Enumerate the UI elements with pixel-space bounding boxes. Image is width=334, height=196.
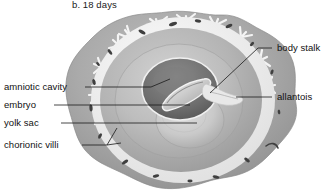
figure-root: b. 18 days: [0, 0, 334, 196]
label-allantois: allantois: [277, 91, 312, 102]
label-body-stalk: body stalk: [277, 42, 320, 53]
label-yolk-sac: yolk sac: [4, 117, 39, 128]
label-chorionic-villi: chorionic villi: [4, 139, 59, 150]
label-embryo: embryo: [4, 99, 36, 110]
label-amniotic-cavity: amniotic cavity: [4, 81, 67, 92]
